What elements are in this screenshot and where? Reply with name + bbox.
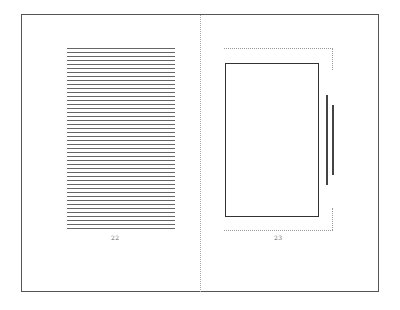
- text-line: [67, 116, 175, 117]
- text-line: [67, 224, 175, 225]
- text-line: [67, 160, 175, 161]
- right-page-margin-bottom: [224, 230, 333, 231]
- text-line: [67, 152, 175, 153]
- text-line: [67, 192, 175, 193]
- text-line: [67, 180, 175, 181]
- spine-divider: [200, 15, 201, 292]
- text-line: [67, 200, 175, 201]
- text-line: [67, 56, 175, 57]
- text-line: [67, 52, 175, 53]
- text-line: [67, 128, 175, 129]
- text-line: [67, 208, 175, 209]
- text-line: [67, 120, 175, 121]
- text-line: [67, 140, 175, 141]
- text-line: [67, 164, 175, 165]
- text-line: [67, 176, 175, 177]
- text-line: [67, 168, 175, 169]
- text-line: [67, 100, 175, 101]
- text-line: [67, 60, 175, 61]
- right-page-margin-top: [224, 48, 333, 49]
- text-line: [67, 136, 175, 137]
- text-line: [67, 196, 175, 197]
- text-line: [67, 188, 175, 189]
- text-line: [67, 212, 175, 213]
- text-line: [67, 216, 175, 217]
- left-page-number: 22: [111, 234, 120, 241]
- text-line: [67, 72, 175, 73]
- text-line: [67, 76, 175, 77]
- text-line: [67, 48, 175, 49]
- right-page-margin-right-bottom: [332, 208, 333, 230]
- text-line: [67, 172, 175, 173]
- text-line: [67, 112, 175, 113]
- text-line: [67, 184, 175, 185]
- text-line: [67, 144, 175, 145]
- left-page-text-block: [67, 48, 175, 232]
- text-line: [67, 104, 175, 105]
- text-line: [67, 108, 175, 109]
- text-line: [67, 64, 175, 65]
- text-line: [67, 228, 175, 229]
- text-line: [67, 96, 175, 97]
- text-line: [67, 68, 175, 69]
- text-line: [67, 204, 175, 205]
- text-line: [67, 156, 175, 157]
- right-page-image-box: [225, 63, 319, 217]
- text-line: [67, 132, 175, 133]
- text-line: [67, 220, 175, 221]
- text-line: [67, 124, 175, 125]
- caption-bar-short: [332, 105, 334, 175]
- text-line: [67, 148, 175, 149]
- caption-bar-long: [326, 95, 328, 185]
- text-line: [67, 80, 175, 81]
- text-line: [67, 84, 175, 85]
- right-page-number: 23: [274, 234, 283, 241]
- right-page-margin-right-top: [332, 48, 333, 70]
- text-line: [67, 88, 175, 89]
- text-line: [67, 92, 175, 93]
